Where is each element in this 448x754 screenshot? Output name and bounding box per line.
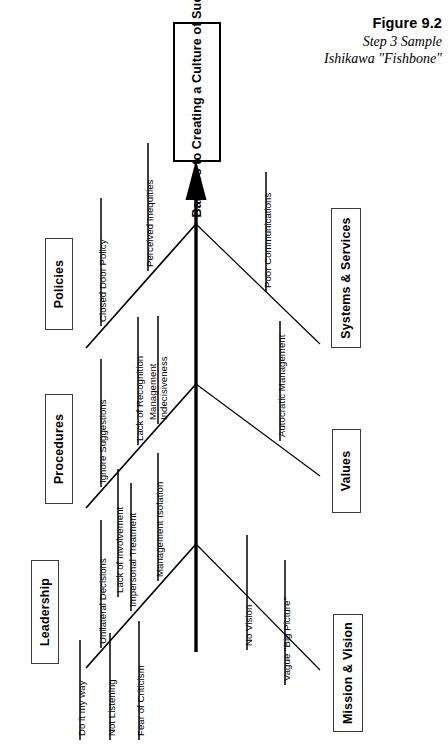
cause-label-unilateral-decisions: Unilateral Decisions	[98, 558, 109, 644]
cause-label-fear-of-criticism: Fear of Criticism	[136, 665, 147, 736]
cause-label-do-it-my-way: Do it my way	[77, 680, 88, 736]
category-box-systems-services[interactable]: Systems & Services	[331, 208, 361, 348]
rib-mission-vision	[196, 544, 320, 670]
category-label-procedures: Procedures	[52, 414, 66, 484]
category-label-systems-services: Systems & Services	[339, 217, 353, 338]
category-label-values: Values	[340, 451, 354, 491]
cause-label-vague-big-picture: Vague "Big Picture"	[282, 597, 293, 681]
cause-label-ignore-suggestions: Ignore Suggestions	[98, 399, 109, 483]
rib-systems-services	[196, 224, 320, 344]
rib-values	[196, 384, 320, 476]
category-box-leadership[interactable]: Leadership	[31, 560, 59, 664]
fishbone-head-label: Barriers to Creating a Culture of Succes…	[189, 0, 206, 217]
cause-label-poor-communications: Poor Communications	[263, 193, 274, 288]
cause-label-closed-door-policy: Closed Door Policy	[98, 240, 109, 322]
cause-label-perceived-inequities: Perceived Inequities	[145, 180, 156, 267]
category-box-procedures[interactable]: Procedures	[45, 394, 73, 504]
cause-label-autocratic-management: Autocratic Management	[277, 335, 288, 437]
cause-label-no-vision: No Vision	[244, 605, 255, 646]
cause-label-management-isolation: Management Isolation	[155, 482, 166, 577]
fishbone-head-box[interactable]: Barriers to Creating a Culture of Succes…	[173, 22, 221, 162]
fishbone-skeleton	[0, 0, 448, 754]
cause-label-management-indecisiveness: Management Indecisiveness	[148, 316, 169, 420]
cause-label-lack-of-involvement: Lack of Involvement	[115, 507, 126, 593]
category-box-values[interactable]: Values	[332, 429, 361, 513]
category-box-mission-vision[interactable]: Mission & Vision	[333, 614, 363, 732]
cause-label-impersonal-treatment: Impersonal Treatment	[128, 513, 139, 607]
category-label-leadership: Leadership	[38, 578, 52, 646]
cause-label-not-listening: Not Listening	[107, 679, 118, 736]
category-label-policies: Policies	[52, 260, 66, 308]
figure-page: Figure 9.2 Step 3 Sample Ishikawa "Fishb…	[0, 0, 448, 754]
category-box-policies[interactable]: Policies	[45, 238, 73, 330]
category-label-mission-vision: Mission & Vision	[341, 622, 355, 724]
cause-label-lack-of-recognition: Lack of Recognition	[135, 356, 146, 441]
